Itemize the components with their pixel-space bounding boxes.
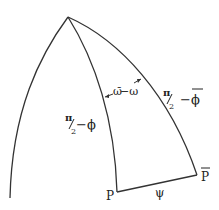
angle-arrowhead-left — [105, 94, 109, 98]
svg-text:−ϕ: −ϕ — [76, 117, 96, 132]
angle-label: ω̄ −ω — [113, 85, 138, 98]
vertex-Pbar-label: P — [201, 170, 209, 184]
angle-arrowhead-right — [137, 79, 141, 83]
vertex-P-label: P — [106, 189, 114, 203]
svg-text:−ω: −ω — [120, 85, 138, 98]
side-left-label: π 2 −ϕ — [65, 112, 96, 136]
svg-text:−ϕ: −ϕ — [180, 92, 200, 107]
svg-text:2: 2 — [169, 102, 174, 111]
side-right-label: π 2 −ϕ — [163, 87, 203, 111]
spherical-triangle-diagram: ω̄ −ω π 2 −ϕ π 2 −ϕ ψ P P — [0, 0, 219, 210]
svg-text:π: π — [65, 112, 72, 123]
svg-text:π: π — [163, 87, 170, 98]
left-meridian-curve — [10, 17, 68, 198]
side-bottom-label: ψ — [155, 186, 164, 200]
